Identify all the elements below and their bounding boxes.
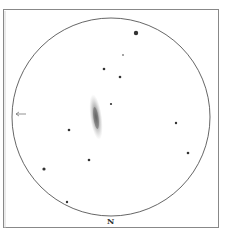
eyepiece-sketch [0, 0, 226, 233]
star [103, 68, 106, 71]
star [119, 76, 122, 79]
star [110, 103, 112, 105]
star [66, 201, 68, 203]
star [187, 152, 190, 155]
star [175, 122, 177, 124]
star [68, 129, 71, 132]
sketch-frame [4, 10, 219, 228]
star [134, 31, 138, 35]
star [122, 54, 124, 56]
star [88, 159, 91, 162]
north-label: N [107, 216, 114, 226]
star [42, 167, 45, 170]
